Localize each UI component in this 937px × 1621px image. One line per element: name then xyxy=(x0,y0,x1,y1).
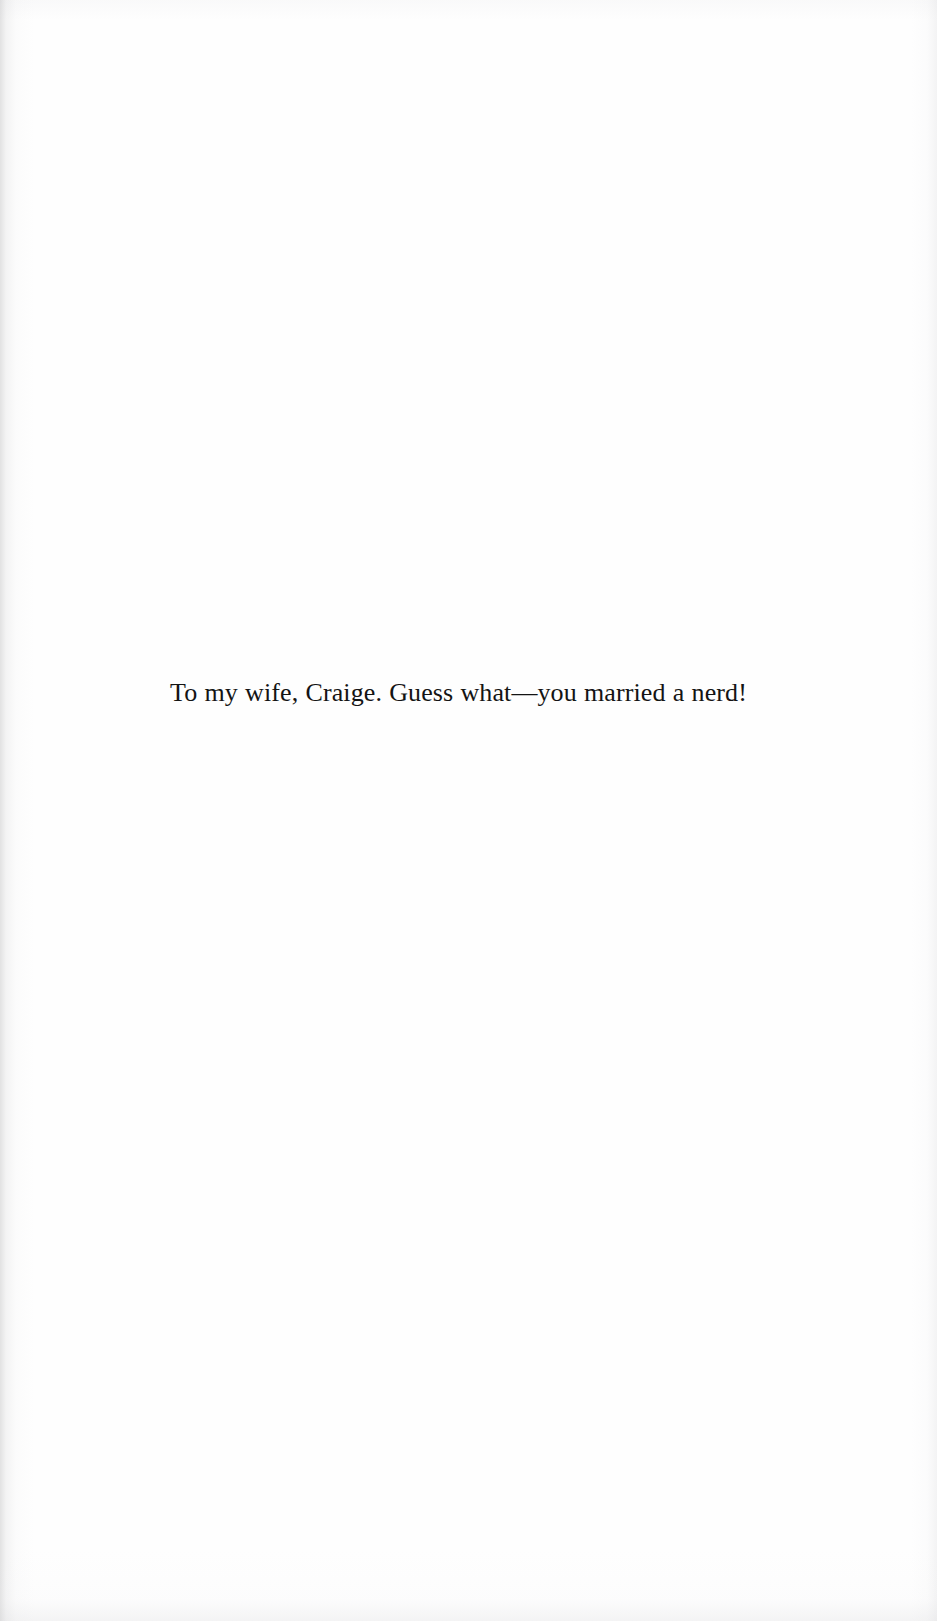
scanned-book-page: To my wife, Craige. Guess what—you marri… xyxy=(0,0,937,1621)
dedication-text: To my wife, Craige. Guess what—you marri… xyxy=(170,676,747,710)
paper-surface xyxy=(0,0,937,1621)
dedication-block: To my wife, Craige. Guess what—you marri… xyxy=(0,676,937,710)
